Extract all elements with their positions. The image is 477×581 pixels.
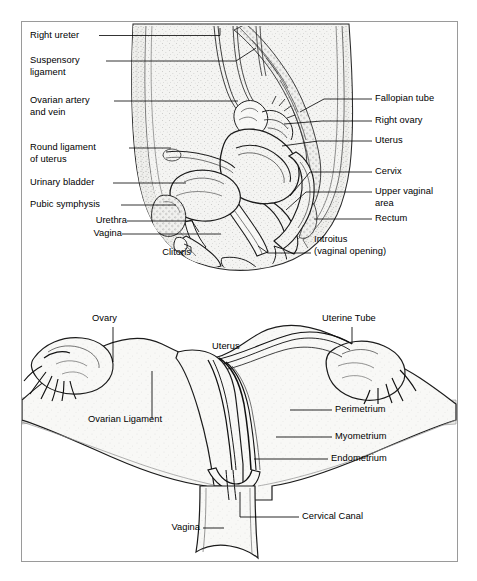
label-ovary: Ovary <box>92 313 117 324</box>
label-pubic-symphysis: Pubic symphysis <box>30 199 100 210</box>
label-introitus-line1: Introitus <box>314 234 348 245</box>
label-myometrium: Myometrium <box>335 431 387 442</box>
label-upper-vaginal-area-line2: area <box>375 198 394 209</box>
label-uterus-coronal: Uterus <box>212 341 240 352</box>
label-endometrium: Endometrium <box>331 453 387 464</box>
label-cervical-canal: Cervical Canal <box>302 511 363 522</box>
label-introitus-line2: (vaginal opening) <box>314 246 386 257</box>
label-clitoris: Clitoris <box>0 247 191 258</box>
label-cervix: Cervix <box>375 166 402 177</box>
label-perimetrium: Perimetrium <box>335 404 386 415</box>
label-ovarian-artery-line2: and vein <box>30 107 66 118</box>
label-ovarian-artery-line1: Ovarian artery <box>30 95 90 106</box>
label-rectum: Rectum <box>375 213 407 224</box>
label-uterine-tube: Uterine Tube <box>322 313 376 324</box>
label-right-ovary: Right ovary <box>375 115 423 126</box>
label-vagina-sagittal: Vagina <box>0 228 122 239</box>
label-uterus-sagittal: Uterus <box>375 135 403 146</box>
figure-page: Right ureter Suspensory ligament Ovarian… <box>0 0 477 581</box>
label-ovarian-ligament: Ovarian Ligament <box>88 414 162 425</box>
label-round-ligament-line2: of uterus <box>30 154 67 165</box>
label-round-ligament-line1: Round ligament <box>30 142 96 153</box>
label-urethra: Urethra <box>0 215 127 226</box>
label-vagina-coronal: Vagina <box>100 522 200 533</box>
label-upper-vaginal-area-line1: Upper vaginal <box>375 186 433 197</box>
label-suspensory-ligament-line1: Suspensory <box>30 55 80 66</box>
label-right-ureter: Right ureter <box>30 30 79 41</box>
label-suspensory-ligament-line2: ligament <box>30 67 66 78</box>
label-urinary-bladder: Urinary bladder <box>30 177 94 188</box>
label-fallopian-tube: Fallopian tube <box>375 93 434 104</box>
